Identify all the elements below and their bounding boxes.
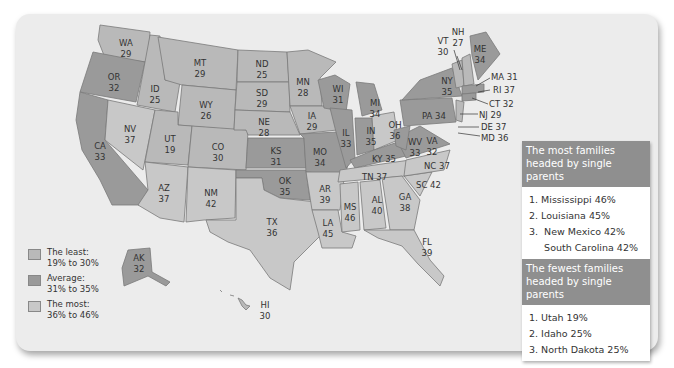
label-ct: CT 32 <box>489 99 514 110</box>
legend-swatch-least <box>28 249 41 260</box>
most-heading: The most families headed by single paren… <box>522 141 650 187</box>
label-ut: UT19 <box>164 134 175 156</box>
state-ct <box>462 93 476 101</box>
label-la: LA45 <box>323 218 334 240</box>
label-wy: WY26 <box>199 100 213 122</box>
most-item: 1. Mississippi 46% <box>529 192 644 208</box>
fewest-item: 3. North Dakota 25% <box>529 342 644 358</box>
legend: The least:19% to 30% Average:31% to 35% … <box>28 247 99 325</box>
label-ma: MA 31 <box>491 72 518 83</box>
label-sc: SC 42 <box>416 180 441 191</box>
label-tx: TX36 <box>266 217 277 239</box>
label-nm: NM42 <box>204 188 218 210</box>
fewest-list: 1. Utah 19% 2. Idaho 25% 3. North Dakota… <box>522 305 650 361</box>
most-item: 3. New Mexico 42% <box>529 224 644 240</box>
label-ak: AK32 <box>133 253 144 275</box>
state-hi <box>220 290 250 310</box>
legend-label: The most: <box>47 299 99 310</box>
label-wv: WV33 <box>408 137 422 159</box>
most-list: 1. Mississippi 46% 2. Louisiana 45% 3. N… <box>522 187 650 259</box>
label-ne: NE28 <box>258 117 270 139</box>
label-nj: NJ 29 <box>479 110 501 121</box>
fewest-item: 2. Idaho 25% <box>529 326 644 342</box>
label-de: DE 37 <box>481 122 506 133</box>
state-nj <box>456 100 464 122</box>
label-me: ME34 <box>474 44 487 66</box>
state-ma <box>462 84 484 94</box>
label-ny: NY35 <box>441 76 453 98</box>
label-or: OR32 <box>108 72 121 94</box>
legend-item-most: The most:36% to 46% <box>28 299 99 321</box>
label-wi: WI31 <box>333 84 344 106</box>
legend-item-least: The least:19% to 30% <box>28 247 99 269</box>
label-va: VA32 <box>426 136 437 158</box>
label-ok: OK35 <box>279 176 291 198</box>
state-nh <box>462 54 474 86</box>
label-nv: NV37 <box>124 124 136 146</box>
label-ks: KS31 <box>271 146 282 168</box>
legend-label: The least: <box>47 247 99 258</box>
most-item: 2. Louisiana 45% <box>529 208 644 224</box>
label-ri: RI 37 <box>493 85 515 96</box>
label-ga: GA38 <box>399 192 411 214</box>
label-mn: MN28 <box>296 77 310 99</box>
label-in: IN35 <box>366 126 377 148</box>
label-al: AL40 <box>372 195 383 217</box>
state-ak <box>122 248 170 286</box>
legend-range: 19% to 30% <box>47 258 99 269</box>
label-ca: CA33 <box>94 141 106 163</box>
fewest-heading: The fewest families headed by single par… <box>522 259 650 305</box>
legend-label: Average: <box>47 273 99 284</box>
label-mo: MO34 <box>313 147 327 169</box>
label-ky: KY 35 <box>372 154 396 165</box>
most-item: South Carolina 42% <box>529 240 644 256</box>
label-id: ID25 <box>150 84 161 106</box>
label-nh: NH27 <box>452 27 465 49</box>
label-mt: MT29 <box>194 58 207 80</box>
fewest-item: 1. Utah 19% <box>529 310 644 326</box>
label-md: MD 36 <box>481 133 508 144</box>
legend-swatch-most <box>28 301 41 312</box>
label-tn: TN 37 <box>362 172 387 183</box>
label-az: AZ37 <box>158 183 170 205</box>
label-hi: HI30 <box>260 300 271 322</box>
label-il: IL33 <box>341 128 352 150</box>
label-vt: VT30 <box>437 36 448 58</box>
label-co: CO30 <box>212 142 225 164</box>
label-mi: MI34 <box>370 98 381 120</box>
rankings-box: The most families headed by single paren… <box>522 141 650 361</box>
label-sd: SD29 <box>256 88 268 110</box>
label-ar: AR39 <box>319 184 331 206</box>
legend-range: 31% to 35% <box>47 284 99 295</box>
legend-item-average: Average:31% to 35% <box>28 273 99 295</box>
label-fl: FL39 <box>422 237 433 259</box>
label-ia: IA29 <box>307 111 318 133</box>
label-nc: NC 37 <box>424 161 450 172</box>
label-nd: ND25 <box>256 59 269 81</box>
legend-swatch-average <box>28 275 41 286</box>
label-ms: MS46 <box>344 202 357 224</box>
label-oh: OH36 <box>388 120 401 142</box>
label-wa: WA29 <box>119 38 133 60</box>
label-pa: PA 34 <box>422 111 446 122</box>
legend-range: 36% to 46% <box>47 310 99 321</box>
